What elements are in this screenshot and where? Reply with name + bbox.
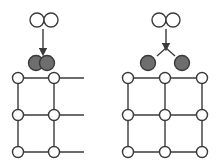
gas-atom-icon	[30, 13, 44, 27]
dissociation-branch	[166, 48, 175, 56]
lattice-site-node	[13, 147, 24, 158]
lattice-site-node	[49, 147, 60, 158]
lattice-site-node	[123, 73, 134, 84]
lattice-site-node	[160, 73, 171, 84]
right-panel-dissociative-adsorption	[123, 13, 208, 158]
lattice-site-node	[49, 110, 60, 121]
lattice-site-node	[123, 110, 134, 121]
lattice-site-node	[197, 73, 208, 84]
gas-atom-icon	[166, 13, 180, 27]
dissociation-branch	[157, 48, 166, 56]
lattice-site-node	[49, 73, 60, 84]
gas-atom-icon	[44, 13, 58, 27]
lattice-site-node	[197, 147, 208, 158]
lattice-site-node	[160, 147, 171, 158]
adsorbed-atom-icon	[141, 56, 156, 71]
lattice-site-node	[13, 73, 24, 84]
lattice-site-node	[160, 110, 171, 121]
left-panel-molecular-adsorption	[13, 13, 85, 158]
adsorbed-atom-icon	[175, 56, 190, 71]
gas-atom-icon	[152, 13, 166, 27]
lattice-site-node	[123, 147, 134, 158]
lattice-site-node	[13, 110, 24, 121]
adsorbed-atom-icon	[40, 56, 55, 71]
lattice-site-node	[197, 110, 208, 121]
adsorption-diagram	[0, 0, 217, 167]
